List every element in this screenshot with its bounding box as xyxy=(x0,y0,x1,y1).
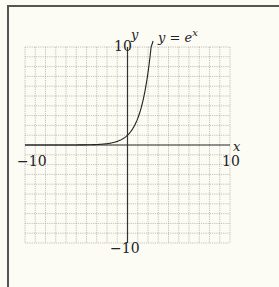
x-min-label: −10 xyxy=(17,153,47,169)
curve-label: y = ex xyxy=(157,27,198,45)
x-max-label: 10 xyxy=(222,153,240,169)
x-axis-label: x xyxy=(233,139,241,154)
y-max-label: 10 xyxy=(114,38,132,54)
y-min-label: −10 xyxy=(110,240,140,256)
